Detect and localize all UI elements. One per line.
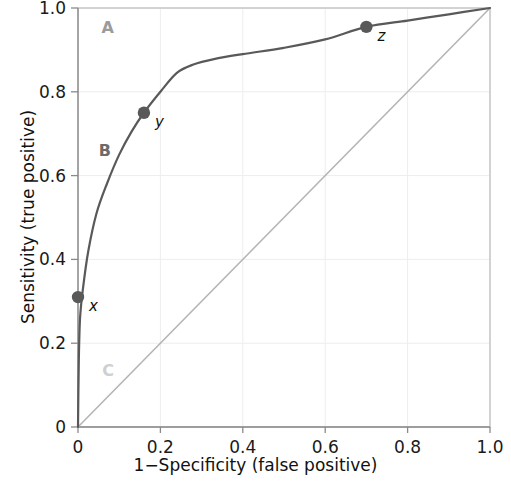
y-tick-label: 1.0	[39, 0, 66, 18]
region-b-label: B	[99, 140, 111, 159]
x-tick-label: 0	[73, 437, 84, 457]
x-axis-title: 1−Specificity (false positive)	[0, 455, 511, 475]
y-tick-label: 0	[55, 417, 66, 437]
y-tick-label: 0.8	[39, 82, 66, 102]
point-label-x: x	[89, 297, 98, 315]
x-tick-label: 0.8	[394, 437, 421, 457]
x-tick-label: 1.0	[476, 437, 503, 457]
y-axis-title: Sensitivity (true positive)	[18, 87, 38, 347]
chance-diagonal	[78, 8, 490, 427]
region-c-label: C	[102, 360, 114, 379]
point-label-z: z	[377, 27, 385, 45]
x-tick-label: 0.6	[312, 437, 339, 457]
data-point-x	[72, 291, 84, 303]
data-point-z	[360, 21, 372, 33]
y-tick-label: 0.2	[39, 333, 66, 353]
x-tick-label: 0.2	[147, 437, 174, 457]
roc-chart: 00.20.40.60.81.0 00.20.40.60.81.0 ABC xy…	[0, 0, 511, 484]
chance-diagonal-line	[78, 8, 490, 427]
data-point-y	[138, 107, 150, 119]
plot-canvas	[0, 0, 511, 484]
x-tick-label: 0.4	[229, 437, 256, 457]
y-tick-label: 0.4	[39, 249, 66, 269]
y-tick-label: 0.6	[39, 166, 66, 186]
region-a-label: A	[101, 17, 113, 36]
point-label-y: y	[155, 113, 164, 131]
